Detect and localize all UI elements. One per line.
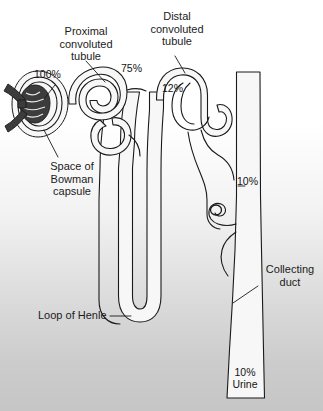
label-loop-of-henle: Loop of Henle: [38, 309, 107, 322]
label-proximal-convoluted-tubule: Proximal convoluted tubule: [38, 25, 134, 63]
value-collecting-duct-entry-percent: 10%: [237, 175, 258, 187]
value-glomerular-filtrate-percent: 100%: [34, 68, 61, 80]
value-after-loop-of-henle-percent: 12%: [162, 82, 183, 94]
value-urine-percent: 10% Urine: [225, 366, 265, 390]
value-after-proximal-tubule-percent: 75%: [121, 62, 142, 74]
tubule-junction-detail: [209, 203, 236, 276]
bowmans-capsule-shape: [4, 71, 68, 137]
nephron-diagram-figure: .tub { fill: #f7f7f7; stroke: #1a1a1a; s…: [0, 0, 323, 411]
label-distal-convoluted-tubule: Distal convoluted tubule: [130, 10, 224, 48]
label-collecting-duct: Collecting duct: [259, 263, 321, 288]
label-space-of-bowman-capsule: Space of Bowman capsule: [35, 160, 109, 198]
